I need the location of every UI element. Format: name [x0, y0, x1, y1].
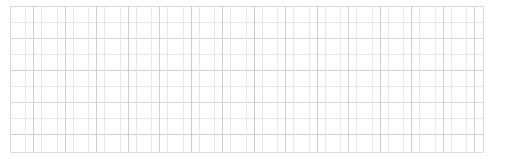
- canvas-background: [0, 0, 506, 167]
- grid-drawing: [0, 0, 506, 167]
- grid-canvas: [0, 0, 506, 167]
